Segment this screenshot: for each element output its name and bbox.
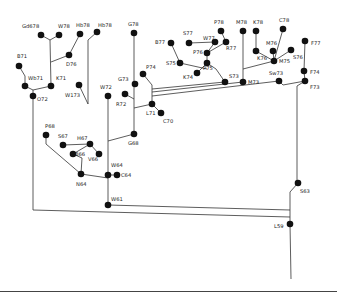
tree-node-d76 [66, 52, 73, 59]
tree-node-m78 [240, 28, 247, 35]
tree-node-p76 [204, 50, 211, 57]
node-label: Gd678 [22, 23, 39, 29]
tree-node-hb78a [77, 31, 84, 38]
tree-node-c78 [280, 26, 287, 33]
tree-node-k71 [48, 83, 55, 90]
tree-node-c70 [158, 110, 165, 117]
tree-node-s76 [288, 47, 295, 54]
node-label: S73 [229, 73, 239, 79]
tree-edge [243, 61, 274, 69]
node-label: V66 [88, 156, 98, 162]
tree-edge [81, 174, 108, 178]
tree-node-w72 [105, 93, 112, 100]
tree-node-s73 [222, 79, 229, 86]
tree-node-b77 [168, 40, 175, 47]
tree-edge [63, 144, 90, 145]
tree-node-g78 [131, 30, 138, 37]
tree-node-w78 [56, 32, 63, 39]
node-label: S75 [166, 60, 176, 66]
tree-node-b71 [16, 63, 23, 70]
tree-edges [19, 29, 305, 279]
tree-node-s77 [186, 40, 193, 47]
tree-node-k78 [253, 28, 260, 35]
node-label: G68 [128, 140, 139, 146]
node-label: B77 [155, 39, 165, 45]
node-label: F74 [310, 69, 320, 75]
node-label: O72 [37, 96, 48, 102]
node-label: F77 [311, 40, 321, 46]
tree-edge [108, 205, 290, 210]
bottom-divider [0, 291, 337, 292]
tree-node-g68 [131, 131, 138, 138]
node-label: K76 [257, 55, 267, 61]
node-label: S77 [183, 30, 193, 36]
tree-node-sw73 [276, 78, 283, 85]
node-label: M75 [279, 58, 290, 64]
tree-node-p74 [140, 71, 147, 78]
node-label: M73 [248, 79, 259, 85]
node-label: C64 [121, 172, 132, 178]
tree-node-r72 [122, 91, 129, 98]
tree-edge [290, 224, 291, 279]
node-label: G78 [128, 21, 139, 27]
tree-node-l71 [149, 101, 156, 108]
tree-node-f74 [301, 68, 308, 75]
node-label: K78 [253, 19, 263, 25]
node-label: P76 [193, 49, 203, 55]
tree-node-w64 [105, 172, 112, 179]
node-label: K71 [56, 75, 66, 81]
tree-edge [143, 74, 152, 104]
node-label: S76 [293, 54, 303, 60]
node-label: M76 [266, 40, 277, 46]
tree-node-m75 [271, 58, 278, 65]
tree-edge [297, 81, 305, 183]
node-label: N64 [76, 181, 87, 187]
tree-node-m76 [270, 48, 277, 55]
node-label: L59 [274, 223, 284, 229]
tree-node-gd78 [38, 32, 45, 39]
tree-edge [50, 40, 51, 86]
node-label: P68 [45, 123, 55, 129]
node-label: W72 [100, 84, 112, 90]
node-label: F73 [310, 84, 320, 90]
node-label: W64 [111, 162, 123, 168]
tree-node-f73 [302, 78, 309, 85]
node-label: L71 [146, 110, 156, 116]
tree-node-wb71 [22, 83, 29, 90]
tree-node-n64 [78, 171, 85, 178]
node-label: H67 [77, 135, 88, 141]
tree-edge [25, 86, 51, 90]
tree-node-k76 [253, 48, 260, 55]
tree-edge [69, 34, 80, 55]
tree-node-l59 [287, 221, 294, 228]
node-label: Hb78 [98, 22, 112, 28]
tree-edge [189, 42, 215, 43]
tree-node-hb78b [94, 29, 101, 36]
phylogenetic-tree-diagram: Gd678W78Hb78Hb78D76B71Wb71K71O72W173W72G… [0, 0, 337, 293]
tree-node-s63 [295, 180, 302, 187]
node-label: B71 [17, 53, 27, 59]
node-label: P74 [146, 64, 156, 70]
node-label: C70 [163, 118, 173, 124]
tree-node-m73 [240, 79, 247, 86]
tree-node-o72 [30, 93, 37, 100]
tree-node-s67 [60, 142, 67, 149]
node-label: S63 [300, 188, 310, 194]
tree-node-f77 [302, 38, 309, 45]
node-label: M78 [236, 19, 247, 25]
tree-node-p78 [218, 28, 225, 35]
tree-node-w61 [105, 202, 112, 209]
tree-node-w173 [76, 82, 83, 89]
node-label: W78 [58, 23, 70, 29]
node-label: R77 [226, 45, 236, 51]
node-label: K74 [183, 74, 194, 80]
node-label: Sw73 [269, 70, 283, 76]
node-label: Hb78 [76, 22, 90, 28]
tree-node-h67 [87, 141, 94, 148]
node-label: R72 [116, 101, 126, 107]
node-label: W77 [203, 35, 215, 41]
node-label: W61 [111, 196, 123, 202]
tree-edge [88, 32, 97, 104]
node-label: C78 [279, 17, 289, 23]
node-label: S67 [58, 133, 68, 139]
